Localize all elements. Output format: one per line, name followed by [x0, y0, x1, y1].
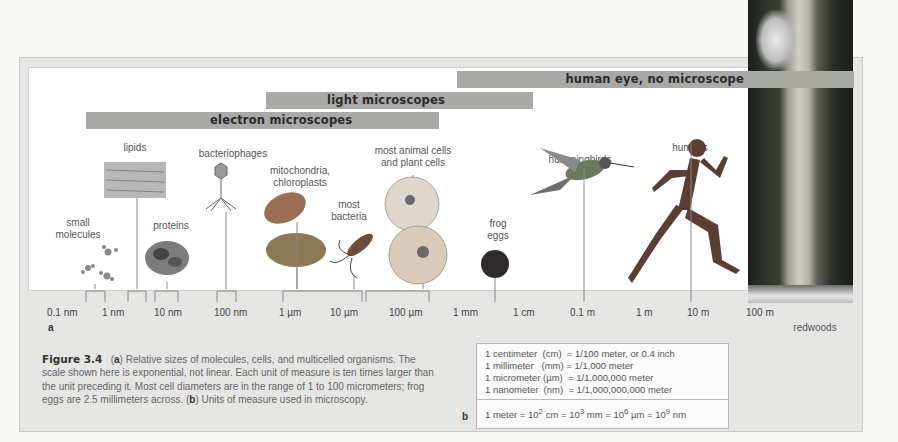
tick-10um: 10 µm	[330, 307, 358, 318]
frog-egg-icon	[481, 250, 509, 278]
tick-1nm: 1 nm	[102, 307, 124, 318]
tick-1m: 1 m	[636, 307, 653, 318]
small-molecules-icon	[81, 245, 118, 281]
tick-100m: 100 m	[746, 307, 774, 318]
caption-b-text: Units of measure used in microscopy.	[202, 394, 368, 405]
tick-0.1nm: 0.1 nm	[47, 307, 78, 318]
caption-a-marker: a	[114, 354, 120, 365]
proteins-icon	[145, 241, 189, 275]
tick-10nm: 10 nm	[154, 307, 182, 318]
units-divider	[477, 399, 728, 400]
chloroplast-icon	[266, 233, 326, 267]
caption-b-marker: b	[189, 394, 195, 405]
bacteriophage-icon	[206, 163, 236, 211]
panel-a-label: a	[48, 322, 54, 333]
units-row-cm: 1 centimeter (cm) = 1/100 meter, or 0.4 …	[485, 348, 675, 359]
tick-1cm: 1 cm	[513, 307, 535, 318]
units-row-mm: 1 millimeter (mm) = 1/1,000 meter	[485, 360, 633, 371]
tick-100nm: 100 nm	[214, 307, 247, 318]
panel-b-label: b	[462, 411, 468, 422]
figure-caption: Figure 3.4 (a) Relative sizes of molecul…	[42, 353, 438, 407]
figure-number: Figure 3.4	[42, 353, 102, 365]
tick-0.1m: 0.1 m	[570, 307, 595, 318]
bacteria-icon	[330, 230, 376, 278]
hummingbird-icon	[530, 148, 634, 195]
units-table: 1 centimeter (cm) = 1/100 meter, or 0.4 …	[476, 343, 729, 429]
human-runner-icon	[628, 139, 740, 283]
mitochondria-icon	[259, 186, 311, 230]
tick-1um: 1 µm	[279, 307, 301, 318]
tick-1mm: 1 mm	[453, 307, 478, 318]
tick-100um: 100 µm	[389, 307, 423, 318]
units-row-um: 1 micrometer (µm) = 1/1,000,000 meter	[485, 372, 653, 383]
units-row-nm: 1 nanometer (nm) = 1/1,000,000,000 meter	[485, 384, 672, 395]
units-equivalence: 1 meter = 102 cm = 103 mm = 106 µm = 109…	[485, 407, 686, 420]
range-brackets	[86, 291, 429, 302]
tick-10m: 10 m	[687, 307, 709, 318]
